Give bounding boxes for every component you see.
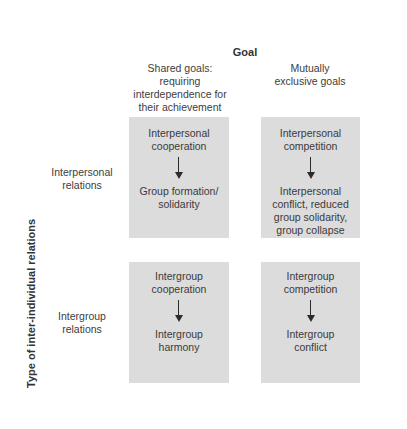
down-arrow-icon (306, 157, 316, 179)
column-header-line: Shared goals: (124, 62, 236, 75)
row-label-line: Interpersonal (42, 166, 122, 179)
effect-line: Intergroup (287, 328, 335, 341)
column-header-line: Mutually (256, 62, 364, 75)
column-header-line: exclusive goals (256, 75, 364, 88)
effect-line: group solidarity, (272, 211, 348, 224)
effect-line: group collapse (272, 224, 348, 237)
effect-text: Interpersonal conflict, reduced group so… (268, 185, 352, 237)
row-label-line: relations (42, 179, 122, 192)
effect-text: Group formation/ solidarity (136, 185, 223, 211)
cause-text: Interpersonal cooperation (144, 127, 213, 153)
column-header-line: interdependence for (124, 88, 236, 101)
cell-interpersonal-shared: Interpersonal cooperation Group formatio… (129, 117, 229, 238)
column-header-line: requiring (124, 75, 236, 88)
vertical-axis-title: Type of inter-individual relations (25, 219, 37, 388)
effect-line: solidarity (140, 198, 219, 211)
row-label-line: relations (42, 323, 122, 336)
cause-text: Intergroup cooperation (148, 270, 211, 296)
down-arrow-icon (174, 300, 184, 322)
column-header-shared-goals: Shared goals: requiring interdependence … (124, 62, 236, 114)
column-header-exclusive-goals: Mutually exclusive goals (256, 62, 364, 88)
effect-text: Intergroup harmony (151, 328, 207, 354)
cell-intergroup-shared: Intergroup cooperation Intergroup harmon… (129, 262, 229, 383)
cause-line: competition (280, 140, 341, 153)
cause-line: competition (284, 283, 338, 296)
cause-text: Intergroup competition (280, 270, 342, 296)
cause-line: Intergroup (152, 270, 207, 283)
cause-line: Intergroup (284, 270, 338, 283)
effect-line: Interpersonal (272, 185, 348, 198)
effect-line: harmony (155, 341, 203, 354)
effect-line: Intergroup (155, 328, 203, 341)
goal-header: Goal (200, 46, 290, 58)
cause-line: cooperation (148, 140, 209, 153)
row-label-line: Intergroup (42, 310, 122, 323)
cell-interpersonal-exclusive: Interpersonal competition Interpersonal … (261, 117, 360, 238)
effect-line: conflict, reduced (272, 198, 348, 211)
cause-text: Interpersonal competition (276, 127, 345, 153)
effect-line: Group formation/ (140, 185, 219, 198)
cause-line: cooperation (152, 283, 207, 296)
column-header-line: their achievement (124, 101, 236, 114)
cell-intergroup-exclusive: Intergroup competition Intergroup confli… (261, 262, 360, 383)
effect-text: Intergroup conflict (283, 328, 339, 354)
down-arrow-icon (306, 300, 316, 322)
down-arrow-icon (174, 157, 184, 179)
cause-line: Interpersonal (148, 127, 209, 140)
row-label-intergroup: Intergroup relations (42, 310, 122, 336)
row-label-interpersonal: Interpersonal relations (42, 166, 122, 192)
cause-line: Interpersonal (280, 127, 341, 140)
effect-line: conflict (287, 341, 335, 354)
